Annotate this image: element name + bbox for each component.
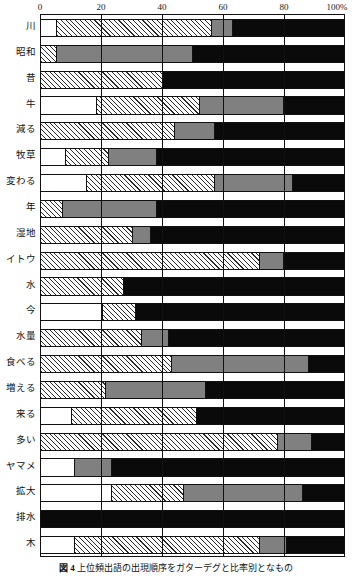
gridline-20 xyxy=(101,15,102,556)
category-label: 拡大 xyxy=(16,487,36,497)
bar-segment-white xyxy=(41,149,65,165)
caption-text: 上位頻出語の出現順序をガターデグと比率別となもの xyxy=(77,563,293,573)
bar-row xyxy=(40,45,345,63)
stacked-bar[interactable] xyxy=(40,277,345,295)
bar-segment-hatch xyxy=(41,253,259,269)
stacked-bar[interactable] xyxy=(40,19,345,37)
stacked-bar[interactable] xyxy=(40,329,345,347)
stacked-bar[interactable] xyxy=(40,303,345,321)
bar-segment-gray xyxy=(199,97,284,113)
category-label: 牧草 xyxy=(16,151,36,161)
bar-segment-hatch xyxy=(41,382,105,398)
bar-row xyxy=(40,71,345,89)
bar-segment-gray xyxy=(105,382,205,398)
bar-segment-black xyxy=(302,485,344,501)
bar-segment-hatch xyxy=(41,46,56,62)
bar-segment-gray xyxy=(56,46,192,62)
stacked-bar[interactable] xyxy=(40,510,345,528)
gridline-60 xyxy=(223,15,224,556)
stacked-bar[interactable] xyxy=(40,96,345,114)
bar-segment-black xyxy=(283,97,344,113)
bar-segment-black xyxy=(214,123,344,139)
category-label: 来る xyxy=(16,410,36,420)
bar-segment-black xyxy=(41,511,344,527)
stacked-bar[interactable] xyxy=(40,407,345,425)
stacked-bar[interactable] xyxy=(40,174,345,192)
stacked-bar[interactable] xyxy=(40,252,345,270)
bar-segment-black xyxy=(168,330,344,346)
bar-segment-hatch xyxy=(71,408,195,424)
bar-segment-black xyxy=(311,434,344,450)
x-axis-tick-100: 100% xyxy=(327,0,348,14)
x-axis-tick-60: 60 xyxy=(219,0,228,14)
category-label: 増える xyxy=(6,384,36,394)
bar-segment-gray xyxy=(132,227,150,243)
bar-segment-hatch xyxy=(111,485,184,501)
category-label: 水量 xyxy=(16,332,36,342)
stacked-bar[interactable] xyxy=(40,148,345,166)
bar-segment-gray xyxy=(141,330,168,346)
bar-segment-black xyxy=(150,227,344,243)
category-label: 多い xyxy=(16,436,36,446)
bar-segment-hatch xyxy=(41,278,123,294)
bar-row xyxy=(40,122,345,140)
bar-row xyxy=(40,226,345,244)
bar-segment-white xyxy=(41,175,86,191)
bar-row xyxy=(40,277,345,295)
stacked-bar[interactable] xyxy=(40,355,345,373)
bar-segment-black xyxy=(156,149,344,165)
category-label: 牛 xyxy=(26,100,36,110)
bar-segment-black xyxy=(162,72,344,88)
bar-row xyxy=(40,303,345,321)
category-label: 年 xyxy=(26,203,36,213)
stacked-bar[interactable] xyxy=(40,45,345,63)
x-axis-tick-80: 80 xyxy=(280,0,289,14)
gridline-40 xyxy=(162,15,163,556)
bar-segment-gray xyxy=(171,356,307,372)
bar-segment-hatch xyxy=(96,97,199,113)
stacked-bar[interactable] xyxy=(40,200,345,218)
bar-segment-gray xyxy=(211,20,232,36)
stacked-bar[interactable] xyxy=(40,484,345,502)
bar-segment-black xyxy=(156,201,344,217)
bar-segment-gray xyxy=(62,201,156,217)
bar-segment-gray xyxy=(74,459,110,475)
x-axis-tick-40: 40 xyxy=(158,0,167,14)
bar-segment-hatch xyxy=(86,175,213,191)
category-label: ヤマメ xyxy=(6,462,36,472)
stacked-bar[interactable] xyxy=(40,122,345,140)
bar-row xyxy=(40,329,345,347)
bar-segment-black xyxy=(286,537,344,553)
stacked-bar[interactable] xyxy=(40,433,345,451)
stacked-bar[interactable] xyxy=(40,71,345,89)
stacked-bar[interactable] xyxy=(40,226,345,244)
bar-row xyxy=(40,96,345,114)
category-label: 昔 xyxy=(26,74,36,84)
bar-row xyxy=(40,510,345,528)
gridline-0 xyxy=(40,15,41,556)
bar-row xyxy=(40,407,345,425)
plot-area xyxy=(40,14,345,557)
bar-row xyxy=(40,19,345,37)
category-label: 食べる xyxy=(6,358,36,368)
bar-segment-white xyxy=(41,408,71,424)
category-label: 木 xyxy=(26,539,36,549)
bar-segment-gray xyxy=(259,253,283,269)
bar-row xyxy=(40,174,345,192)
bar-row xyxy=(40,433,345,451)
category-label: 川 xyxy=(26,22,36,32)
bar-row xyxy=(40,458,345,476)
bar-segment-hatch xyxy=(41,330,141,346)
stacked-bar[interactable] xyxy=(40,458,345,476)
bar-segment-gray xyxy=(174,123,213,139)
bar-rows xyxy=(40,15,345,556)
x-axis-tick-20: 20 xyxy=(97,0,106,14)
bar-segment-white xyxy=(41,459,74,475)
category-label: イトウ xyxy=(6,255,36,265)
stacked-bar[interactable] xyxy=(40,381,345,399)
category-label: 湿地 xyxy=(16,229,36,239)
bar-segment-hatch xyxy=(41,227,132,243)
stacked-bar[interactable] xyxy=(40,536,345,554)
bar-segment-hatch xyxy=(41,123,174,139)
gridline-100 xyxy=(344,15,345,556)
